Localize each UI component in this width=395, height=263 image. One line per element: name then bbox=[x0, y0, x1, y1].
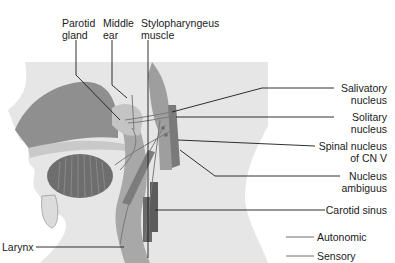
label-middle-ear: Middle ear bbox=[103, 17, 134, 41]
jaw bbox=[42, 195, 58, 228]
label-larynx: Larynx bbox=[2, 241, 34, 253]
tongue bbox=[47, 154, 113, 198]
label-nucleus-ambiguus: Nucleus ambiguus bbox=[341, 170, 387, 194]
label-salivatory-nucleus: Salivatory nucleus bbox=[341, 82, 387, 106]
label-carotid-sinus: Carotid sinus bbox=[326, 204, 387, 216]
legend-autonomic: Autonomic bbox=[317, 231, 367, 243]
label-spinal-nucleus-cn-v: Spinal nucleus of CN V bbox=[319, 140, 387, 164]
label-solitary-nucleus: Solitary nucleus bbox=[351, 111, 387, 135]
legend-sensory: Sensory bbox=[317, 250, 356, 262]
label-stylopharyngeus-muscle: Stylopharyngeus muscle bbox=[141, 17, 219, 41]
label-parotid-gland: Parotid gland bbox=[62, 17, 95, 41]
